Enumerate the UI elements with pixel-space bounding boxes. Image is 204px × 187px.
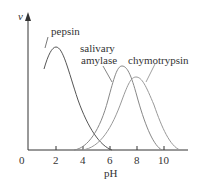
salivary-amylase-curve <box>74 66 162 150</box>
pepsin-leader <box>45 37 48 48</box>
y-axis-label: v <box>18 10 23 22</box>
chymotrypsin-label: chymotrypsin <box>128 54 189 66</box>
tick-6: 6 <box>107 154 113 166</box>
tick-8: 8 <box>134 154 140 166</box>
salivary-label-line2: amylase <box>81 54 117 66</box>
y-axis-arrow-icon <box>25 12 31 21</box>
chymotrypsin-leader <box>146 64 155 82</box>
chymotrypsin-curve <box>82 77 180 150</box>
origin-label: 0 <box>19 154 25 166</box>
tick-2: 2 <box>53 154 59 166</box>
pepsin-label: pepsin <box>51 25 80 37</box>
enzyme-ph-chart: v pepsin salivary amylase chymotrypsin 0… <box>0 0 204 187</box>
salivary-leader <box>103 66 112 82</box>
tick-4: 4 <box>80 154 86 166</box>
x-axis-label: pH <box>104 167 118 179</box>
tick-10: 10 <box>158 154 170 166</box>
salivary-label-line1: salivary <box>80 42 115 54</box>
